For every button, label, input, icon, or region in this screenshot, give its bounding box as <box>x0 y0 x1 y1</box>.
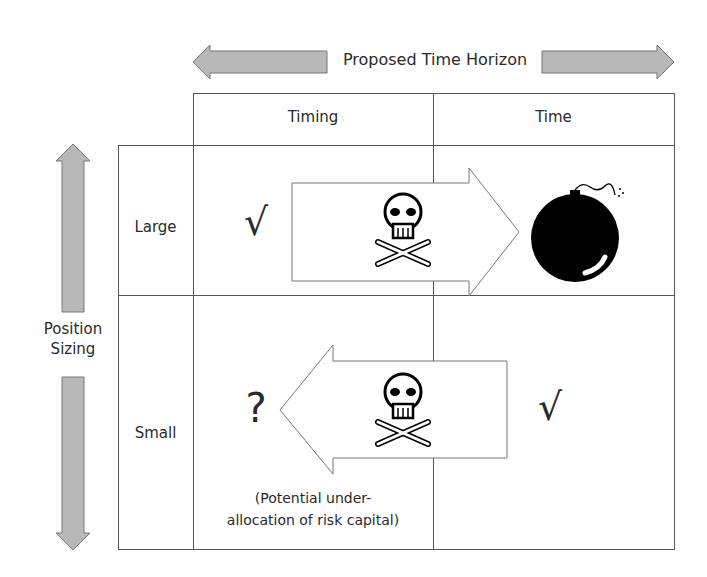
note-line-2: allocation of risk capital) <box>193 512 433 528</box>
check-large-timing: √ <box>236 200 276 244</box>
skull-crossbones-icon <box>370 370 436 450</box>
bomb-icon <box>530 183 640 288</box>
check-small-time: √ <box>530 385 570 429</box>
question-small-timing: ? <box>236 385 276 431</box>
skull-crossbones-icon <box>370 190 436 270</box>
note-line-1: (Potential under- <box>193 490 433 506</box>
